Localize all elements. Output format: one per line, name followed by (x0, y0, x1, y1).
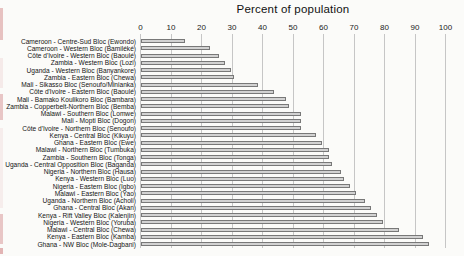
bar (141, 133, 317, 137)
bar (141, 220, 384, 224)
bar (141, 39, 186, 43)
bar (141, 90, 274, 94)
bar (141, 170, 341, 174)
bar (141, 242, 430, 246)
bar (141, 75, 235, 79)
bar (141, 112, 302, 116)
bar (141, 184, 350, 188)
bar (141, 162, 332, 166)
bar (141, 155, 329, 159)
bar (141, 68, 231, 72)
bar (141, 126, 302, 130)
bar (141, 213, 378, 217)
bar (141, 61, 225, 65)
bar (141, 83, 259, 87)
bar (141, 199, 366, 203)
bar (141, 54, 219, 58)
chart-canvas: Percent of population 010203040506070809… (0, 0, 464, 256)
bars-layer (0, 0, 464, 256)
bar (141, 104, 289, 108)
bar (141, 206, 372, 210)
bar (141, 141, 323, 145)
bar (141, 235, 424, 239)
bar (141, 97, 286, 101)
bar (141, 148, 329, 152)
bar (141, 191, 357, 195)
bar (141, 119, 302, 123)
bar (141, 177, 344, 181)
bar (141, 46, 210, 50)
bar (141, 228, 399, 232)
